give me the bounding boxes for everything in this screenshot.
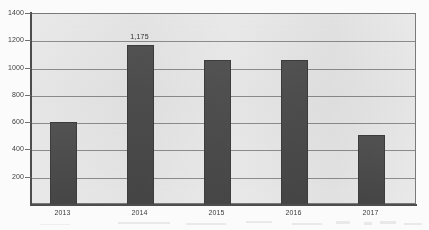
y-axis-tick-label: 400 (0, 145, 24, 153)
y-axis-tick-mark (25, 122, 31, 123)
bar (281, 60, 308, 205)
y-axis-tick-mark (25, 40, 31, 41)
y-axis-tick-mark (25, 149, 31, 150)
scan-artifact (246, 221, 272, 223)
scan-artifact (336, 221, 350, 224)
y-axis-tick-label: 1200 (0, 36, 24, 44)
scan-artifact (364, 222, 372, 225)
y-axis-tick-label: 1000 (0, 64, 24, 72)
chart-page: 140012001000800600400200 201320142015201… (0, 0, 429, 230)
scan-artifact (404, 223, 422, 225)
plot-area (31, 13, 416, 204)
scan-artifact (292, 223, 322, 225)
x-axis-tick-label: 2013 (38, 209, 88, 216)
bar (50, 122, 77, 205)
y-axis-tick-label: 1400 (0, 9, 24, 17)
bar (204, 60, 231, 205)
y-axis-tick-mark (25, 13, 31, 14)
bar (127, 45, 154, 205)
y-axis-tick-mark (25, 95, 31, 96)
x-axis-tick-label: 2017 (346, 209, 396, 216)
gridline (32, 41, 415, 42)
scan-artifact (380, 221, 396, 224)
y-axis-tick-mark (25, 177, 31, 178)
x-axis-tick-label: 2014 (115, 209, 165, 216)
y-axis-tick-label: 800 (0, 91, 24, 99)
y-axis-tick-label: 200 (0, 173, 24, 181)
bar-value-label: 1,175 (117, 33, 163, 40)
scan-artifact (40, 224, 70, 225)
x-axis-tick-label: 2015 (192, 209, 242, 216)
scan-artifact (118, 222, 170, 224)
x-axis-tick-label: 2016 (269, 209, 319, 216)
y-axis-tick-label: 600 (0, 118, 24, 126)
x-axis-line (30, 204, 417, 206)
bar (358, 135, 385, 205)
scan-artifact (186, 223, 226, 225)
y-axis-tick-mark (25, 68, 31, 69)
y-axis-labels: 140012001000800600400200 (0, 0, 24, 230)
